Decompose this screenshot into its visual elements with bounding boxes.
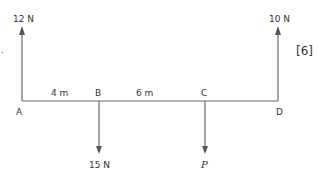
force-label-A: 12 N — [13, 14, 34, 24]
distance-label-BC: 6 m — [136, 88, 153, 98]
force-label-D: 10 N — [269, 14, 290, 24]
force-label-B: 15 N — [89, 160, 110, 170]
distance-label-AB: 4 m — [51, 88, 68, 98]
force-A-up: 12 N — [13, 14, 34, 101]
force-D-up: 10 N — [269, 14, 290, 101]
point-label-A: A — [16, 107, 23, 117]
bullet-dot: . — [1, 45, 4, 55]
marks-label: [6] — [296, 44, 313, 58]
arrowhead-up-icon — [275, 26, 281, 35]
beam-diagram: . 12 N 10 N 15 N P A B C D 4 m 6 m [6] — [0, 0, 327, 176]
force-label-C: P — [200, 159, 208, 170]
force-C-down: P — [200, 101, 208, 170]
point-label-C: C — [201, 88, 207, 98]
arrowhead-down-icon — [202, 146, 208, 154]
point-label-D: D — [276, 107, 283, 117]
arrowhead-up-icon — [19, 26, 25, 35]
point-label-B: B — [95, 88, 101, 98]
arrowhead-down-icon — [96, 146, 102, 154]
force-B-down: 15 N — [89, 101, 110, 170]
